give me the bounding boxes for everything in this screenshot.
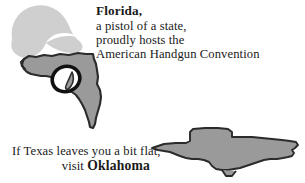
texas-caption-line-2: visit Oklahoma: [6, 159, 154, 174]
texas-caption-emphasis: Oklahoma: [87, 158, 150, 173]
smoke-puff: [11, 5, 82, 58]
texas-state-shape: [152, 128, 298, 176]
florida-caption-line-3: proudly hosts the: [96, 34, 260, 47]
texas-caption-line-1: If Texas leaves you a bit flat,: [6, 144, 154, 159]
florida-caption-headword: Florida,: [96, 4, 260, 17]
texas-caption: If Texas leaves you a bit flat, visit Ok…: [6, 144, 154, 174]
cartoon-illustration: Florida, a pistol of a state, proudly ho…: [0, 0, 305, 183]
florida-caption-line-2: a pistol of a state,: [96, 20, 260, 33]
texas-caption-line-2-prefix: visit: [62, 159, 87, 173]
florida-caption: Florida, a pistol of a state, proudly ho…: [96, 4, 260, 62]
florida-caption-line-4: American Handgun Convention: [96, 48, 260, 61]
